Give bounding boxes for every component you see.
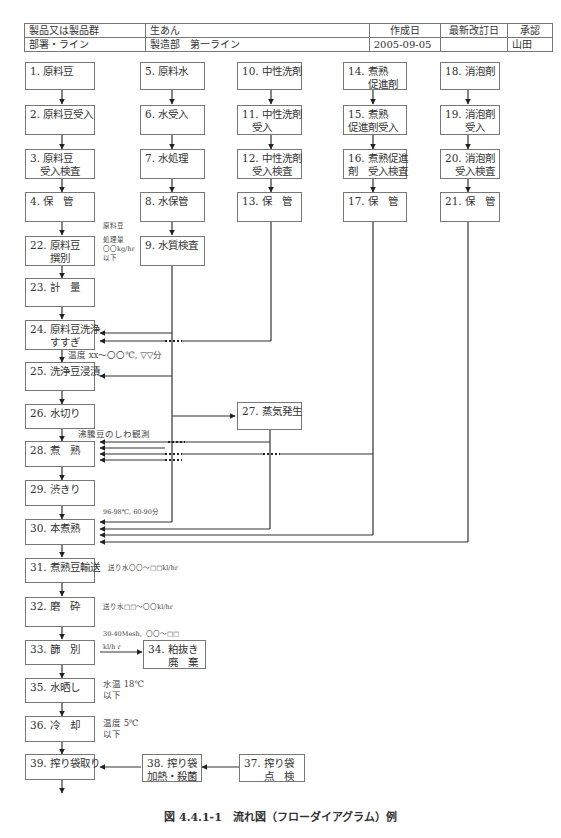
step-box-19: 19. 消泡剤 受入 (440, 105, 500, 135)
step-box-7: 7. 水処理 (140, 149, 205, 179)
step-box-26: 26. 水切り (25, 404, 95, 429)
step-box-22: 22. 原料豆 撰別 (25, 236, 95, 266)
step-box-5: 5. 原料水 (140, 62, 205, 90)
step-box-20: 20. 消泡剤 受入検査 (440, 149, 500, 179)
step-box-25: 25. 洗浄豆浸漬 (25, 362, 95, 391)
step-box-21: 21. 保 管 (440, 192, 500, 222)
note-throughput: 処理量 〇〇kg/hr 以下 (103, 236, 135, 263)
step-box-13: 13. 保 管 (237, 192, 302, 222)
step-box-24: 24. 原料豆洗浄 すすぎ (25, 320, 95, 350)
note-main-boil: 96-98℃, 60-90分 (103, 508, 159, 517)
note-mesh: 30-40Mesh, 〇〇〜□□ (103, 630, 179, 639)
note-wash-temp: 温度 xx〜〇〇℃, ▽▽分 (68, 350, 162, 361)
step-box-18: 18. 消泡剤 (440, 62, 500, 90)
note-grind-water: 送り水□□〜〇〇kl/hr (103, 603, 173, 612)
step-box-29: 29. 渋きり (25, 480, 95, 506)
step-box-36: 36. 冷 却 (25, 716, 95, 742)
step-box-33: 33. 篩 別 (25, 640, 95, 665)
note-cool-temp: 温度 5℃ 以下 (103, 718, 139, 740)
step-box-9: 9. 水質検査 (140, 236, 205, 266)
step-box-30: 30. 本煮熟 (25, 519, 95, 545)
step-box-31: 31. 煮熟豆輸送 (25, 558, 95, 583)
step-box-6: 6. 水受入 (140, 105, 205, 135)
step-box-10: 10. 中性洗剤 (237, 62, 302, 90)
step-box-35: 35. 水晒し (25, 678, 95, 703)
step-box-2: 2. 原料豆受入 (25, 105, 95, 135)
step-box-3: 3. 原料豆 受入検査 (25, 149, 95, 179)
note-water-temp: 水温 18℃ 以下 (103, 679, 144, 701)
step-box-23: 23. 計 量 (25, 278, 95, 307)
step-box-16: 16. 煮熟促進 剤 受入検査 (343, 149, 407, 179)
step-box-38: 38. 搾り袋 加熱・殺菌 (142, 754, 202, 782)
step-box-4: 4. 保 管 (25, 192, 95, 222)
step-box-28: 28. 煮 熟 (25, 441, 95, 467)
step-box-14: 14. 煮熟 促進剤 (343, 62, 407, 90)
step-box-32: 32. 磨 砕 (25, 597, 95, 627)
step-box-17: 17. 保 管 (343, 192, 407, 222)
figure-caption: 図 4.4.1-1 流れ図（フローダイアグラム）例 (0, 808, 561, 824)
note-boil-observe: 沸騰豆のしわ観測 (78, 429, 150, 440)
step-box-34: 34. 粕抜き 廃 棄 (143, 640, 206, 669)
step-box-27: 27. 蒸気発生 (237, 402, 302, 430)
step-box-15: 15. 煮熟 促進剤受入 (343, 105, 407, 135)
step-box-37: 37. 搾り袋 点 検 (239, 754, 305, 782)
step-box-1: 1. 原料豆 (25, 62, 95, 90)
note-mesh-unit: kl/h r (103, 643, 121, 652)
note-transport-water: 送り水〇〇〜□□kl/hr (108, 564, 178, 573)
step-box-8: 8. 水保管 (140, 192, 205, 222)
note-raw-beans: 原料豆 (103, 222, 124, 231)
step-box-39: 39. 搾り袋取り (25, 754, 95, 780)
step-box-12: 12. 中性洗剤 受入検査 (237, 149, 302, 179)
step-box-11: 11. 中性洗剤 受入 (237, 105, 302, 135)
